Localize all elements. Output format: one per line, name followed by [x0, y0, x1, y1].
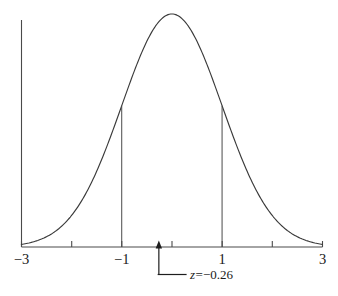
z-equals-value: =−0.26	[196, 267, 234, 282]
x-tick-label-3: 3	[319, 251, 326, 267]
normal-density-curve-path	[21, 14, 322, 244]
x-tick-label--3: −3	[14, 251, 29, 267]
normal-curve-figure: −3 −1 1 3 z=−0.26	[0, 0, 338, 296]
z-variable-glyph: z	[189, 267, 195, 282]
x-tick-label-1: 1	[219, 251, 226, 267]
normal-distribution-plot: −3 −1 1 3 z=−0.26	[0, 0, 338, 296]
z-value-label: z=−0.26	[189, 267, 233, 282]
x-tick-label--1: −1	[114, 251, 129, 267]
